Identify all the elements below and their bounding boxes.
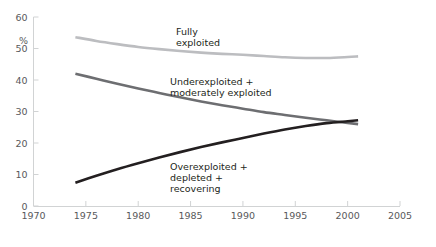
x-tick-label: 2005: [388, 210, 412, 221]
x-tick-label: 1980: [126, 210, 150, 221]
y-tick-label: 30: [15, 106, 27, 117]
fisheries-stock-status-line-chart: 0102030405060 19701975198019851990199520…: [0, 0, 436, 247]
x-tick-label: 1970: [21, 210, 45, 221]
x-tick-label: 1990: [231, 210, 255, 221]
y-tick-label: 10: [15, 169, 27, 180]
y-tick-label: 60: [15, 12, 27, 23]
x-tick-label: 1995: [283, 210, 307, 221]
y-tick-label: 40: [15, 75, 27, 86]
overexploited-label-line1: Overexploited +: [170, 161, 248, 172]
chart-container: 0102030405060 19701975198019851990199520…: [0, 0, 436, 247]
underexploited-label-line1: Underexploited +: [170, 76, 254, 87]
y-axis-unit-label: %: [19, 35, 28, 46]
x-tick-label: 1975: [74, 210, 98, 221]
y-tick-label: 20: [15, 138, 27, 149]
x-tick-label: 1985: [178, 210, 202, 221]
fully-exploited-label-line2: exploited: [176, 37, 220, 48]
overexploited-label-line3: recovering: [170, 183, 221, 194]
underexploited-label-line2: moderately exploited: [170, 87, 272, 98]
overexploited-label-line2: depleted +: [170, 172, 223, 183]
fully-exploited-label-line1: Fully: [176, 26, 198, 37]
x-tick-label: 2000: [336, 210, 360, 221]
